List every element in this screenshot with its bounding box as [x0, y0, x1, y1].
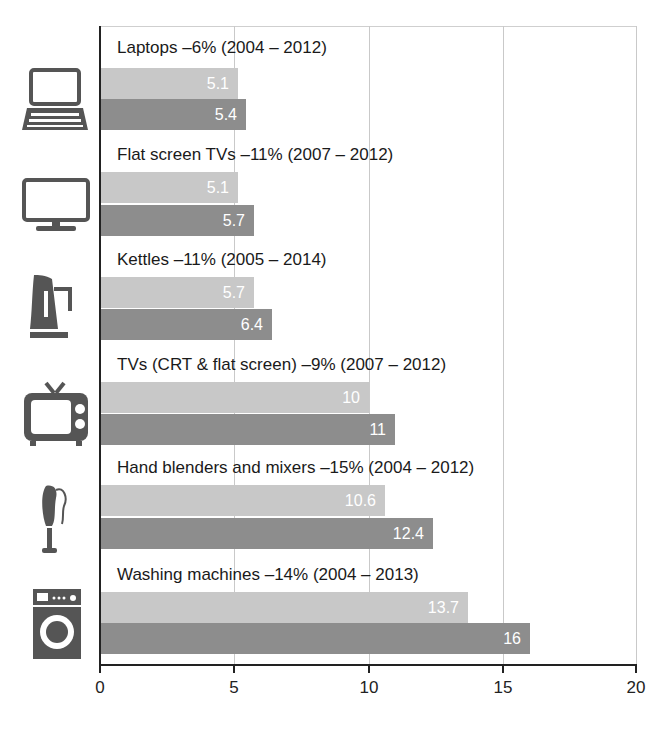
group-label-kettles: Kettles –11% (2005 – 2014): [117, 250, 327, 270]
bar-value: 5.1: [207, 75, 229, 93]
x-tick-label: 20: [627, 678, 646, 698]
bar-flat-screen-tvs-light: 5.1: [101, 172, 238, 203]
tv-icon: [22, 381, 90, 447]
bar-tvs-light: 10: [101, 382, 369, 413]
bar-flat-screen-tvs-dark: 5.7: [101, 205, 254, 236]
bar-kettles-dark: 6.4: [101, 309, 272, 340]
x-tick-label: 0: [95, 678, 104, 698]
bar-tvs-dark: 11: [101, 414, 395, 445]
bar-washing-machines-light: 13.7: [101, 592, 468, 623]
gridline-15: [503, 26, 504, 664]
group-label-laptops: Laptops –6% (2004 – 2012): [117, 38, 327, 58]
x-tick: [99, 664, 101, 673]
bar-hand-blenders-light: 10.6: [101, 485, 385, 516]
kettle-icon: [28, 273, 84, 343]
bar-value: 16: [503, 630, 521, 648]
bar-washing-machines-dark: 16: [101, 623, 530, 654]
bar-value: 13.7: [428, 599, 459, 617]
group-label-flat-screen-tvs: Flat screen TVs –11% (2007 – 2012): [117, 145, 393, 165]
bar-value: 11: [369, 421, 386, 439]
x-tick: [368, 664, 370, 673]
bar-value: 5.7: [223, 284, 245, 302]
washing-machine-icon: [32, 588, 82, 660]
bar-value: 5.4: [215, 106, 237, 124]
group-label-hand-blenders: Hand blenders and mixers –15% (2004 – 20…: [117, 458, 474, 478]
bar-value: 12.4: [393, 525, 424, 543]
laptop-icon: [21, 68, 89, 132]
x-tick-label: 5: [229, 678, 238, 698]
x-tick: [502, 664, 504, 673]
bar-value: 6.4: [241, 316, 263, 334]
x-tick: [635, 664, 637, 673]
bar-value: 5.1: [207, 179, 229, 197]
horizontal-bar-chart: Laptops –6% (2004 – 2012) 5.1 5.4 Flat s…: [0, 0, 668, 730]
monitor-icon: [22, 178, 90, 232]
hand-blender-icon: [38, 484, 74, 556]
bar-laptops-dark: 5.4: [101, 99, 246, 130]
group-label-washing-machines: Washing machines –14% (2004 – 2013): [117, 565, 419, 585]
bar-value: 5.7: [223, 212, 245, 230]
bar-laptops-light: 5.1: [101, 68, 238, 99]
group-label-tvs: TVs (CRT & flat screen) –9% (2007 – 2012…: [117, 355, 446, 375]
bar-value: 10: [342, 389, 360, 407]
bar-value: 10.6: [345, 492, 376, 510]
x-tick-label: 10: [360, 678, 379, 698]
bar-hand-blenders-dark: 12.4: [101, 518, 433, 549]
x-tick-label: 15: [494, 678, 513, 698]
gridline-20: [636, 26, 637, 664]
x-tick: [233, 664, 235, 673]
y-axis: [99, 26, 101, 666]
bar-kettles-light: 5.7: [101, 277, 254, 308]
